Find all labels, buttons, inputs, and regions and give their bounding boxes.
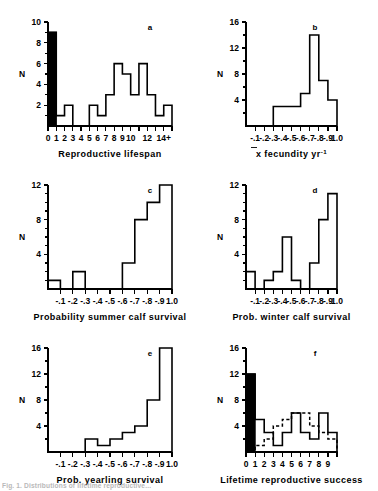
x-tick-label: -.5	[105, 296, 115, 306]
x-tick-label: 7	[103, 133, 108, 143]
x-tick-label: 10	[126, 133, 136, 143]
y-tick-label: 6	[36, 59, 41, 69]
y-axis-ticks: 4812	[32, 180, 48, 280]
y-axis-ticks: 481216	[230, 343, 246, 439]
x-tick-label: 9	[120, 133, 125, 143]
x-tick-label: -.3	[80, 296, 90, 306]
x-tick-label: 12	[142, 133, 152, 143]
y-axis-title: N	[217, 232, 223, 242]
y-tick-label: 8	[36, 38, 41, 48]
y-tick-label: 12	[230, 43, 240, 53]
axes	[48, 185, 172, 289]
x-tick-label: 5	[87, 133, 92, 143]
filled-bars	[48, 32, 56, 126]
panel-letter: d	[313, 186, 318, 195]
y-tick-label: 4	[234, 421, 239, 431]
y-tick-label: 8	[234, 215, 239, 225]
axes	[246, 348, 337, 452]
x-tick-label: 4	[280, 459, 285, 469]
y-tick-label: 2	[36, 100, 41, 110]
x-tick-label: 6	[95, 133, 100, 143]
y-tick-label: 12	[32, 180, 42, 190]
x-tick-label: 2	[62, 133, 67, 143]
x-axis-title: Prob. winter calf survival	[232, 312, 350, 322]
panel-letter: e	[148, 349, 153, 358]
filled-bars	[246, 374, 255, 452]
y-tick-label: 4	[36, 249, 41, 259]
y-tick-label: 8	[36, 395, 41, 405]
x-tick-label: -.6	[117, 459, 127, 469]
x-tick-label: 8	[112, 133, 117, 143]
x-axis-ticks: 0123456789101214+	[46, 126, 172, 143]
chart-panel-e: 481216N-.1-.2-.3-.4-.5-.6-.7-.8-.91.0ePr…	[0, 328, 189, 491]
y-axis-title: N	[217, 69, 223, 79]
x-axis-ticks: -.1-.2-.3-.4-.5-.6-.7-.8-.91.0	[55, 452, 178, 469]
x-tick-label: -.8	[142, 296, 152, 306]
histogram-solid	[246, 194, 337, 289]
x-tick-label: 1.0	[166, 459, 178, 469]
x-tick-label: -.7	[130, 296, 140, 306]
histogram-solid	[48, 32, 172, 126]
panel-letter: a	[148, 23, 153, 32]
x-tick-label: 0	[46, 133, 51, 143]
x-tick-label: 2	[262, 459, 267, 469]
y-axis-title: N	[19, 232, 25, 242]
x-tick-label: 3	[70, 133, 75, 143]
y-tick-label: 4	[36, 79, 41, 89]
y-tick-label: 16	[32, 343, 42, 353]
x-tick-label: -.9	[155, 459, 165, 469]
x-axis-title: Probability summer calf survival	[34, 312, 187, 322]
x-tick-label: -.2	[68, 459, 78, 469]
axes	[246, 22, 337, 126]
x-tick-label: 1.0	[331, 296, 343, 306]
y-axis-title: N	[217, 395, 223, 405]
x-tick-label: -.3	[80, 459, 90, 469]
x-tick-label: -.6	[117, 296, 127, 306]
x-tick-label: -.9	[155, 296, 165, 306]
figure-caption: Fig. 1. Distributions of lifetime reprod…	[2, 481, 376, 490]
x-tick-label: -.1	[55, 459, 65, 469]
y-tick-label: 12	[230, 369, 240, 379]
chart-panel-c: 4812N-.1-.2-.3-.4-.5-.6-.7-.8-.91.0cProb…	[0, 165, 189, 328]
x-tick-label: -.4	[93, 459, 103, 469]
figure-panel-grid: 246810N0123456789101214+aReproductive li…	[0, 0, 378, 491]
panel-letter: c	[148, 186, 153, 195]
x-axis-ticks: -.1-.2-.3-.4-.5-.6-.7-.8-.91.0	[250, 126, 343, 143]
x-tick-label: 7	[307, 459, 312, 469]
x-tick-label: 6	[298, 459, 303, 469]
x-axis-title: x fecundity yr-1	[256, 148, 327, 160]
y-tick-label: 4	[234, 249, 239, 259]
x-tick-label: 1	[253, 459, 258, 469]
x-tick-label: 14+	[157, 133, 171, 143]
axes	[48, 22, 172, 126]
panel-letter: b	[313, 23, 318, 32]
x-tick-label: -.4	[93, 296, 103, 306]
y-axis-ticks: 481216	[32, 343, 48, 439]
x-tick-label: 0	[244, 459, 249, 469]
chart-panel-b: 481216N-.1-.2-.3-.4-.5-.6-.7-.8-.91.0bx …	[189, 2, 378, 165]
y-tick-label: 8	[234, 395, 239, 405]
x-axis-ticks: -.1-.2-.3-.4-.5-.6-.7-.8-.91.0	[55, 289, 178, 306]
x-axis-ticks: -.1-.2-.3-.4-.5-.6-.7-.8-.91.0	[250, 289, 343, 306]
x-tick-label: 1	[54, 133, 59, 143]
histogram-solid	[48, 185, 172, 289]
y-tick-label: 4	[36, 421, 41, 431]
y-tick-label: 12	[230, 180, 240, 190]
x-tick-label: 3	[271, 459, 276, 469]
y-tick-label: 8	[234, 69, 239, 79]
x-tick-label: -.8	[142, 459, 152, 469]
x-tick-label: -.7	[130, 459, 140, 469]
chart-panel-d: 4812N-.1-.2-.3-.4-.5-.6-.7-.8-.91.0dProb…	[189, 165, 378, 328]
x-tick-label: -.2	[68, 296, 78, 306]
panel-letter: f	[314, 349, 317, 358]
x-tick-label: 1.0	[331, 133, 343, 143]
x-tick-label: -.5	[105, 459, 115, 469]
x-tick-label: 4	[79, 133, 84, 143]
chart-panel-a: 246810N0123456789101214+aReproductive li…	[0, 2, 189, 165]
y-tick-label: 8	[36, 215, 41, 225]
histogram-solid	[246, 35, 337, 126]
y-tick-label: 16	[230, 343, 240, 353]
y-tick-label: 16	[230, 17, 240, 27]
x-tick-label: 9	[326, 459, 331, 469]
x-tick-label: 5	[289, 459, 294, 469]
